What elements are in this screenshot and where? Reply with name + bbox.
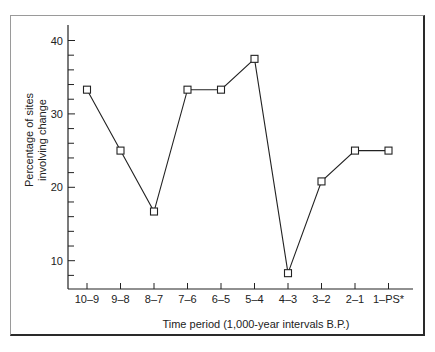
data-point-square-marker [285, 270, 292, 277]
y-tick-label: 40 [51, 35, 63, 47]
y-axis: 10203040 [51, 25, 75, 289]
y-axis-title-line-2: involving change [36, 99, 48, 181]
data-point-square-marker [117, 147, 124, 154]
x-tick-label: 2–1 [346, 293, 364, 305]
x-tick-label: 10–9 [75, 293, 99, 305]
data-point-square-marker [251, 55, 258, 62]
x-tick-label: 8–7 [145, 293, 163, 305]
x-tick-label: 4–3 [279, 293, 297, 305]
data-point-square-marker [218, 86, 225, 93]
y-axis-title: Percentage of sites involving change [23, 92, 48, 187]
x-axis: 10–99–88–77–66–55–44–33–22–11–PS* [68, 283, 413, 305]
data-point-square-marker [385, 147, 392, 154]
data-point-square-marker [151, 208, 158, 215]
data-point-square-marker [84, 86, 91, 93]
y-axis-title-line-1: Percentage of sites [23, 92, 35, 187]
x-tick-label: 6–5 [212, 293, 230, 305]
y-tick-label: 20 [51, 181, 63, 193]
series-line [87, 59, 389, 273]
y-tick-label: 10 [51, 255, 63, 267]
x-tick-label: 7–6 [178, 293, 196, 305]
x-tick-label: 3–2 [312, 293, 330, 305]
x-axis-title: Time period (1,000-year intervals B.P.) [162, 318, 349, 330]
data-point-square-marker [318, 178, 325, 185]
data-series [84, 55, 393, 276]
x-tick-label: 9–8 [111, 293, 129, 305]
data-point-square-marker [184, 86, 191, 93]
x-tick-label: 1–PS* [373, 293, 405, 305]
data-point-square-marker [352, 147, 359, 154]
x-tick-label: 5–4 [245, 293, 263, 305]
line-chart: 10203040 10–99–88–77–66–55–44–33–22–11–P… [0, 0, 435, 352]
y-tick-label: 30 [51, 108, 63, 120]
